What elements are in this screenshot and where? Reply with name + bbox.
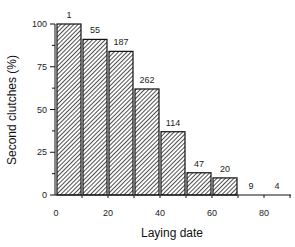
bar-6: [213, 178, 237, 195]
bar-count-label: 4: [274, 181, 279, 191]
bar-count-label: 9: [248, 181, 253, 191]
y-axis-title: Second clutches (%): [5, 55, 19, 165]
bar-count-label: 20: [220, 164, 230, 174]
x-tick-label: 20: [103, 208, 113, 218]
y-tick-label: 75: [37, 62, 47, 72]
bar-count-label: 114: [166, 118, 180, 128]
x-axis-title: Laying date: [141, 226, 203, 240]
x-tick-label: 0: [53, 208, 58, 218]
bar-count-label: 47: [194, 159, 204, 169]
bars-group: [57, 24, 237, 195]
y-tick-label: 0: [42, 190, 47, 200]
bar-4: [161, 132, 185, 195]
bar-count-label: 262: [139, 75, 154, 85]
x-tick-label: 60: [207, 208, 217, 218]
y-tick-label: 50: [37, 105, 47, 115]
x-tick-label: 80: [259, 208, 269, 218]
y-tick-label: 25: [37, 147, 47, 157]
bar-1: [83, 39, 107, 195]
bar-5: [187, 173, 211, 195]
bar-count-label: 55: [90, 25, 100, 35]
bar-3: [135, 89, 159, 195]
bar-2: [109, 51, 133, 195]
x-tick-label: 40: [155, 208, 165, 218]
y-tick-label: 100: [32, 19, 47, 29]
bar-count-label: 1: [66, 10, 71, 20]
bar-0: [57, 24, 81, 195]
bar-count-label: 187: [113, 37, 128, 47]
bar-chart: 155187262114472094 0255075100020406080 L…: [0, 0, 295, 247]
